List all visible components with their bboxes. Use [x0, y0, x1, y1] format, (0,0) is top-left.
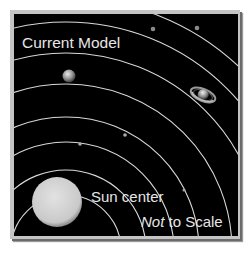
scale-note-rest: to Scale [164, 213, 222, 230]
saturn-icon [189, 85, 218, 106]
uranus-icon [151, 27, 156, 32]
sun-center-label: Sun center [91, 189, 164, 204]
diagram-title: Current Model [22, 35, 120, 51]
earth-icon [123, 133, 127, 137]
scale-note: Not to Scale [141, 214, 223, 229]
sun-icon [32, 177, 82, 227]
scale-note-emphasis: Not [141, 213, 164, 230]
jupiter-icon [63, 70, 76, 83]
neptune-icon [195, 26, 200, 31]
mercury-icon [183, 189, 186, 192]
venus-icon [78, 142, 82, 146]
